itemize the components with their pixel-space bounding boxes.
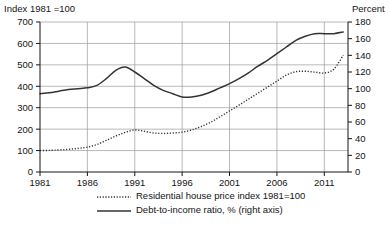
tick-label-right: 0: [355, 166, 360, 177]
series-line: [40, 55, 343, 150]
legend-item-debt-to-income: Debt-to-income ratio, % (right axis): [97, 203, 305, 217]
tick-label-right: 100: [355, 83, 371, 94]
tick-label-left: 0: [28, 166, 33, 177]
legend-label-house-price-index: Residential house price index 1981=100: [136, 189, 305, 203]
tick-label-left: 200: [17, 124, 33, 135]
tick-label-right: 120: [355, 66, 371, 77]
right-axis-ticks: 020406080100120140160180: [348, 16, 371, 177]
chart-legend: Residential house price index 1981=100 D…: [97, 189, 305, 217]
tick-label-left: 300: [17, 102, 33, 113]
legend-label-debt-to-income: Debt-to-income ratio, % (right axis): [136, 203, 283, 217]
tick-label-right: 60: [355, 116, 366, 127]
tick-label-x: 1986: [77, 177, 98, 188]
tick-label-x: 1996: [172, 177, 193, 188]
tick-label-right: 180: [355, 16, 371, 27]
horizontal-gridlines: [40, 22, 348, 151]
legend-item-house-price-index: Residential house price index 1981=100: [97, 189, 305, 203]
tick-label-right: 160: [355, 33, 371, 44]
left-axis-ticks: 0100200300400500600700: [17, 16, 40, 177]
tick-label-x: 2001: [219, 177, 240, 188]
x-axis-ticks: 1981198619911996200120062011: [29, 172, 334, 188]
tick-label-right: 20: [355, 150, 366, 161]
tick-label-left: 100: [17, 145, 33, 156]
tick-label-left: 600: [17, 38, 33, 49]
tick-label-left: 500: [17, 59, 33, 70]
tick-label-right: 40: [355, 133, 366, 144]
legend-swatch-solid: [97, 206, 131, 215]
tick-label-left: 700: [17, 16, 33, 27]
tick-label-x: 2011: [314, 177, 334, 188]
data-series-layer: [40, 32, 343, 151]
tick-label-x: 2006: [266, 177, 287, 188]
tick-label-x: 1991: [124, 177, 145, 188]
tick-label-x: 1981: [29, 177, 50, 188]
legend-swatch-dotted: [97, 192, 131, 201]
tick-label-right: 80: [355, 100, 366, 111]
tick-label-right: 140: [355, 50, 371, 61]
tick-label-left: 400: [17, 81, 33, 92]
chart-figure: Index 1981 =100 Percent 0100200300400500…: [0, 0, 389, 226]
